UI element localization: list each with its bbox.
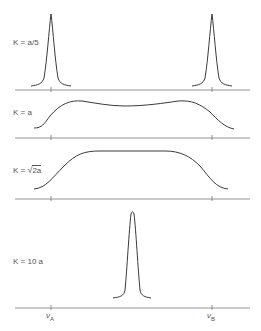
panel-3-label: K = √2a (13, 165, 41, 175)
panel-2-label: K = a (13, 108, 32, 117)
central-peak-curve (113, 212, 151, 298)
peak-b-curve (192, 14, 232, 86)
panel-1-label: K = a/5 (13, 38, 39, 47)
axes (15, 87, 250, 310)
nu-a-label: νA (46, 311, 54, 322)
broad-band-curve (34, 101, 234, 129)
nu-b-label: νB (207, 311, 215, 322)
flat-band-curve (34, 151, 228, 189)
panel-4-label: K = 10 a (13, 257, 43, 266)
peak-a-curve (31, 14, 71, 86)
